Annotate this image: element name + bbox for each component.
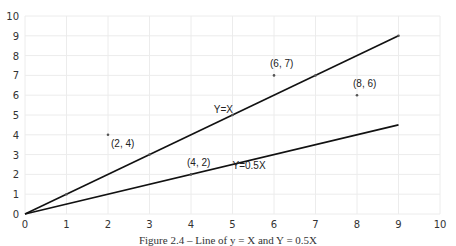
line-label: Y=X: [214, 104, 234, 115]
line-marker: [397, 35, 400, 38]
point-label: (2, 4): [111, 138, 134, 149]
y-tick-label: 7: [13, 70, 19, 81]
y-tick-label: 2: [13, 169, 19, 180]
data-point: [107, 134, 110, 137]
chart: 012345678910 012345678910 Y=XY=0.5X (2, …: [0, 0, 456, 234]
x-tick-label: 0: [22, 219, 28, 230]
plot-lines: Y=XY=0.5X: [25, 36, 399, 214]
line-marker: [65, 193, 68, 196]
line-y-x: [25, 36, 399, 214]
y-tick-label: 10: [6, 11, 19, 22]
data-point: [356, 94, 359, 97]
x-tick-label: 7: [312, 219, 318, 230]
line-y-0-5x: [25, 125, 399, 214]
x-axis-ticks: 012345678910: [22, 219, 447, 230]
x-tick-label: 9: [395, 219, 401, 230]
x-tick-label: 4: [188, 219, 194, 230]
x-tick-label: 3: [146, 219, 152, 230]
x-tick-label: 8: [354, 219, 360, 230]
y-tick-label: 8: [13, 51, 19, 62]
y-tick-label: 1: [13, 189, 19, 200]
x-tick-label: 5: [229, 219, 235, 230]
y-tick-label: 9: [13, 31, 19, 42]
data-point: [273, 74, 276, 77]
line-marker: [231, 114, 234, 117]
data-point: [190, 173, 193, 176]
y-tick-label: 5: [13, 110, 19, 121]
x-tick-label: 2: [105, 219, 111, 230]
line-label: Y=0.5X: [233, 160, 266, 171]
point-label: (4, 2): [187, 157, 210, 168]
y-tick-label: 3: [13, 150, 19, 161]
figure-caption: Figure 2.4 – Line of y = X and Y = 0.5X: [0, 234, 456, 246]
x-tick-label: 6: [271, 219, 277, 230]
point-label: (6, 7): [270, 58, 293, 69]
line-marker: [148, 153, 151, 156]
y-tick-label: 6: [13, 90, 19, 101]
line-marker: [314, 74, 317, 77]
y-tick-label: 4: [13, 130, 19, 141]
x-tick-label: 1: [63, 219, 69, 230]
point-label: (8, 6): [353, 78, 376, 89]
y-axis-ticks: 012345678910: [6, 11, 19, 220]
y-tick-label: 0: [13, 209, 19, 220]
x-tick-label: 10: [434, 219, 447, 230]
